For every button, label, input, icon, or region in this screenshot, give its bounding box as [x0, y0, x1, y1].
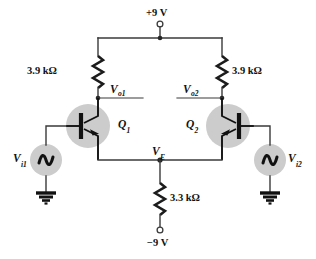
- circuit-schematic-svg: [0, 0, 316, 259]
- differential-amplifier-figure: +9 V −9 V 3.9 kΩ 3.9 kΩ 3.3 kΩ Vo1 Vo2 V…: [0, 0, 316, 259]
- output-tap-right: [177, 96, 224, 101]
- collector-resistor-right: [217, 38, 227, 98]
- output-right-label: Vo2: [183, 84, 198, 96]
- top-rail-node: [158, 36, 163, 41]
- source-right-label: Vi2: [288, 153, 302, 167]
- rc2-zigzag: [217, 56, 227, 88]
- output-left-label-main: V: [110, 83, 118, 95]
- transistor-right-label-main: Q: [186, 118, 194, 130]
- emitter-resistor-label: 3.3 kΩ: [170, 193, 200, 204]
- source-left-label-main: V: [13, 152, 21, 164]
- emitter-common-label-main: V: [152, 145, 160, 157]
- source-left-label-sub: i1: [21, 160, 27, 169]
- ground-right-symbol: [260, 193, 280, 204]
- positive-supply-terminal: [157, 21, 163, 27]
- source-left-top-lead: [46, 126, 66, 145]
- emitter-common-label: VE: [152, 146, 165, 160]
- positive-supply-branch: [98, 21, 222, 40]
- source-right-label-main: V: [288, 152, 296, 164]
- ground-left-symbol: [36, 193, 56, 204]
- collector-resistor-right-label: 3.9 kΩ: [232, 66, 262, 77]
- positive-supply-label: +9 V: [146, 8, 167, 19]
- output-left-label: Vo1: [110, 84, 125, 96]
- collector-resistor-left: [93, 38, 103, 98]
- output-left-label-sub: o1: [118, 89, 126, 98]
- collector-resistor-left-label: 3.9 kΩ: [27, 66, 57, 77]
- transistor-left-label-sub: 1: [127, 126, 131, 135]
- negative-supply-label: −9 V: [147, 238, 168, 249]
- transistor-left-label: Q1: [118, 119, 130, 133]
- re-zigzag: [155, 183, 165, 215]
- negative-supply-terminal: [157, 227, 163, 233]
- output-right-label-main: V: [183, 83, 191, 95]
- transistor-right-label: Q2: [186, 119, 198, 133]
- emitter-common-label-sub: E: [160, 153, 165, 162]
- emitter-resistor-branch: [155, 160, 165, 233]
- source-right-label-sub: i2: [296, 160, 302, 169]
- transistor-left-label-main: Q: [118, 118, 126, 130]
- source-right-top-lead: [254, 126, 270, 145]
- output-right-label-sub: o2: [191, 89, 199, 98]
- transistor-right-label-sub: 2: [195, 126, 199, 135]
- source-left-label: Vi1: [13, 153, 27, 167]
- rc1-zigzag: [93, 56, 103, 88]
